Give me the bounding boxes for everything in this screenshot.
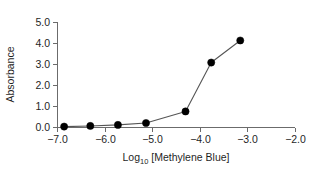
y-tick-label: 0.0 bbox=[35, 121, 50, 133]
x-tick-label: −6.0 bbox=[95, 133, 116, 145]
x-tick-label: −5.0 bbox=[142, 133, 163, 145]
y-axis-title: Absorbance bbox=[4, 46, 16, 102]
y-axis-ticks: 0.01.02.03.04.05.0 bbox=[35, 16, 57, 133]
chart-plot-area: −7.0−6.0−5.0−4.0−3.0−2.0 0.01.02.03.04.0… bbox=[0, 0, 321, 171]
axes-group bbox=[57, 22, 295, 128]
data-line-absorbance bbox=[64, 40, 240, 126]
data-point bbox=[114, 121, 121, 128]
x-tick-label: −2.0 bbox=[285, 133, 306, 145]
data-point bbox=[142, 119, 149, 126]
data-point bbox=[61, 123, 68, 130]
data-point bbox=[182, 108, 189, 115]
y-tick-label: 1.0 bbox=[35, 100, 50, 112]
data-point bbox=[208, 59, 215, 66]
x-axis-ticks: −7.0−6.0−5.0−4.0−3.0−2.0 bbox=[47, 128, 306, 145]
data-point bbox=[87, 122, 94, 129]
y-tick-label: 4.0 bbox=[35, 37, 50, 49]
y-tick-label: 5.0 bbox=[35, 16, 50, 28]
x-tick-label: −4.0 bbox=[190, 133, 211, 145]
chart-figure: −7.0−6.0−5.0−4.0−3.0−2.0 0.01.02.03.04.0… bbox=[0, 0, 321, 171]
x-axis-title: Log10 [Methylene Blue] bbox=[122, 151, 229, 166]
x-tick-label: −3.0 bbox=[237, 133, 258, 145]
x-tick-label: −7.0 bbox=[47, 133, 68, 145]
data-point bbox=[237, 37, 244, 44]
y-tick-label: 3.0 bbox=[35, 58, 50, 70]
y-tick-label: 2.0 bbox=[35, 79, 50, 91]
data-series-group bbox=[61, 37, 244, 130]
